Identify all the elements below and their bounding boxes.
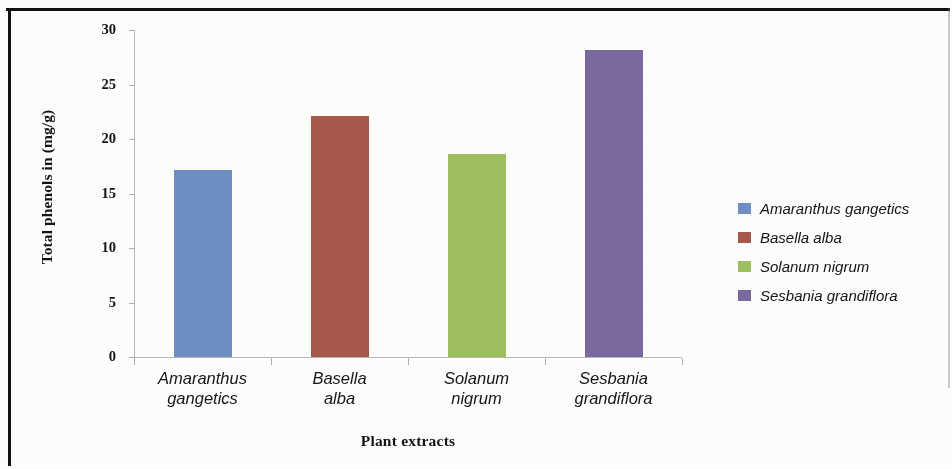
bar-fill (448, 154, 506, 357)
x-category-label-line: Sesbania (524, 368, 704, 388)
legend-color-swatch (738, 261, 751, 272)
y-tick-mark (129, 30, 135, 31)
x-tick-mark (134, 358, 135, 365)
bar-fill (174, 170, 232, 357)
bar (311, 116, 369, 357)
y-tick-label: 25 (76, 76, 116, 93)
y-tick-label: 10 (76, 239, 116, 256)
bar-fill (311, 116, 369, 357)
x-category-label-line: grandiflora (524, 388, 704, 408)
y-tick-label: 5 (76, 294, 116, 311)
y-tick-mark (129, 85, 135, 86)
legend-color-swatch (738, 203, 751, 214)
x-tick-mark (271, 358, 272, 365)
x-tick-mark (408, 358, 409, 365)
legend-color-swatch (738, 232, 751, 243)
y-tick-label: 20 (76, 130, 116, 147)
x-tick-mark (545, 358, 546, 365)
chart-legend: Amaranthus gangeticsBasella albaSolanum … (738, 194, 909, 310)
bar-chart: Total phenols in (mg/g) 051015202530 Ama… (0, 0, 952, 469)
bar (174, 170, 232, 357)
legend-item[interactable]: Basella alba (738, 223, 909, 252)
y-tick-mark (129, 139, 135, 140)
x-category-label: Sesbaniagrandiflora (524, 368, 704, 408)
x-tick-mark (682, 358, 683, 365)
legend-item[interactable]: Sesbania grandiflora (738, 281, 909, 310)
bar (585, 50, 643, 357)
legend-label: Solanum nigrum (760, 258, 869, 275)
legend-color-swatch (738, 290, 751, 301)
bar-fill (585, 50, 643, 357)
legend-label: Basella alba (760, 229, 842, 246)
y-tick-mark (129, 303, 135, 304)
legend-item[interactable]: Amaranthus gangetics (738, 194, 909, 223)
x-axis-title: Plant extracts (134, 432, 682, 450)
y-axis-title: Total phenols in (mg/g) (38, 22, 56, 352)
y-tick-label: 30 (76, 21, 116, 38)
figure-root: Total phenols in (mg/g) 051015202530 Ama… (0, 0, 952, 469)
y-tick-label: 15 (76, 185, 116, 202)
y-tick-label: 0 (76, 348, 116, 365)
bar (448, 154, 506, 357)
legend-item[interactable]: Solanum nigrum (738, 252, 909, 281)
y-tick-mark (129, 248, 135, 249)
legend-label: Sesbania grandiflora (760, 287, 898, 304)
y-tick-mark (129, 194, 135, 195)
legend-label: Amaranthus gangetics (760, 200, 909, 217)
